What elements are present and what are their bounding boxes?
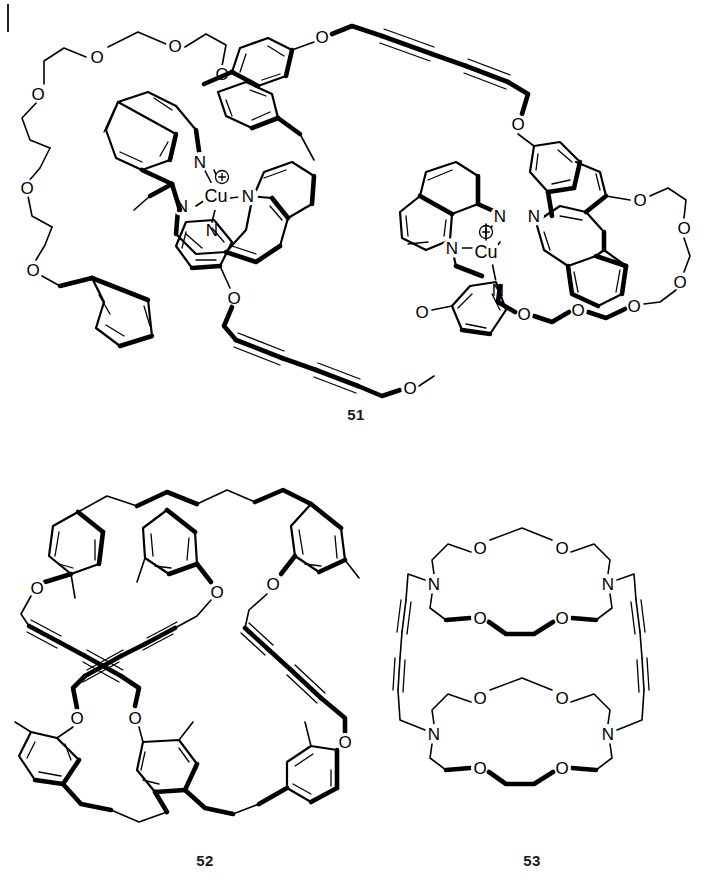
aryl-ring-52-bottom-left: [15, 722, 167, 822]
diyne-53-right: [617, 574, 649, 730]
diyne-linker-top: O O: [313, 26, 528, 134]
copper-label: Cu: [204, 186, 227, 206]
oxygen-label: O: [403, 379, 416, 398]
aryl-ring-52-bottom-right: [259, 722, 337, 804]
oxygen-label: O: [168, 37, 181, 56]
nitrogen-label: N: [242, 187, 254, 206]
diyne-52-right: O: [241, 594, 354, 752]
nitrogen-label: N: [428, 725, 440, 744]
oxygen-label: O: [627, 297, 640, 316]
oxygen-label: O: [673, 273, 686, 292]
diyne-linker-bottom: O: [224, 307, 434, 398]
oxygen-label: O: [415, 303, 428, 322]
figure-caption-53: 53: [492, 852, 572, 869]
oxygen-label: O: [128, 709, 141, 728]
nitrogen-label: N: [528, 207, 540, 226]
oxygen-label: O: [227, 289, 240, 308]
oxygen-label: O: [555, 539, 568, 558]
aryl-ring-right-mid: O: [576, 162, 649, 212]
oxygen-label: O: [31, 85, 44, 104]
oxygen-label: O: [633, 191, 646, 210]
copper-label: Cu: [474, 242, 497, 262]
structure-51: O O O O O O: [0, 10, 712, 400]
nitrogen-label: N: [194, 153, 206, 172]
phenanthroline-left-lower: [172, 162, 314, 262]
structure-53: O O N N O O: [418, 508, 698, 838]
oxygen-label: O: [338, 733, 351, 752]
oxygen-label: O: [555, 689, 568, 708]
oxygen-label: O: [26, 261, 39, 280]
phenanthroline-right-lower: [536, 206, 626, 306]
aryl-ring-left-lower: [60, 278, 152, 346]
aryl-ring-52-bottom-center: [137, 722, 259, 814]
oxygen-label: O: [90, 48, 103, 67]
oxygen-label: O: [30, 579, 43, 598]
diaza-crown-bottom: O O N N O O: [424, 678, 618, 784]
aryl-ring-left-mid: [218, 82, 314, 160]
aryl-ring-left-bottom-stub: [134, 184, 172, 210]
page-canvas: O O O O O O: [0, 0, 712, 896]
phenanthroline-left-upper: [104, 92, 200, 184]
methylene-bridges-top: [78, 490, 311, 512]
oxygen-label: O: [70, 709, 83, 728]
nitrogen-label: N: [446, 239, 458, 258]
oxygen-label: O: [473, 539, 486, 558]
figure-caption-52: 52: [165, 852, 245, 869]
nitrogen-label: N: [494, 207, 506, 226]
aryl-ring-52-top-left: O: [28, 512, 103, 598]
oxygen-label: O: [677, 219, 690, 238]
copper-center-right: N N N N Cu: [442, 206, 544, 300]
oxygen-label: O: [473, 759, 486, 778]
nitrogen-label: N: [428, 575, 440, 594]
aryl-ring-52-top-center: O: [137, 510, 226, 602]
oxygen-label: O: [266, 575, 279, 594]
diaza-crown-top: O O N N O O: [424, 528, 618, 634]
oxygen-label: O: [555, 609, 568, 628]
figure-caption-51: 51: [316, 406, 396, 423]
aryl-ring-52-top-right: O: [264, 504, 359, 594]
nitrogen-label: N: [602, 725, 614, 744]
nitrogen-label: N: [602, 575, 614, 594]
structure-52: O O: [15, 470, 405, 840]
aryl-ring-left-top: [204, 38, 314, 86]
oxygen-label: O: [571, 301, 584, 320]
oxygen-label: O: [20, 179, 33, 198]
oxygen-label: O: [511, 115, 524, 134]
oxygen-label: O: [517, 305, 530, 324]
oxygen-label: O: [555, 759, 568, 778]
oxygen-label: O: [210, 583, 223, 602]
oxygen-label: O: [315, 28, 328, 47]
aryl-ring-right-top: [518, 134, 580, 216]
oxygen-label: O: [473, 689, 486, 708]
oxygen-label: O: [473, 609, 486, 628]
